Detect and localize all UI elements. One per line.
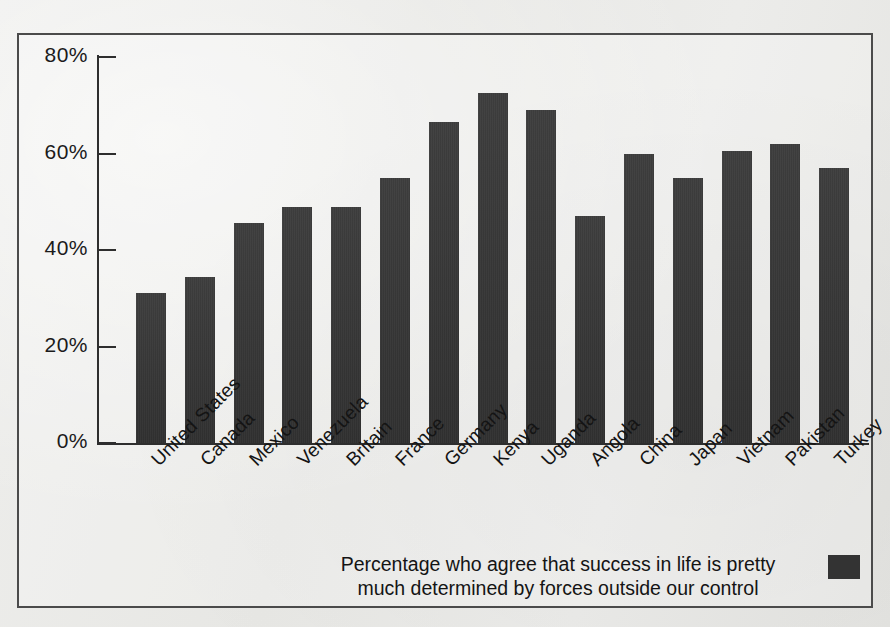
y-axis-tick-labels: 0%20%40%60%80% (0, 0, 88, 627)
legend-color-swatch (828, 555, 860, 579)
legend-label-line-2: much determined by forces outside our co… (300, 576, 816, 600)
y-axis-tick (99, 442, 116, 444)
y-axis-tick (99, 346, 116, 348)
bar (282, 207, 312, 443)
bar (722, 151, 752, 443)
bar (575, 216, 605, 443)
bar (819, 168, 849, 443)
y-axis-tick (99, 153, 116, 155)
y-axis-tick (99, 56, 116, 58)
plot-area (97, 57, 867, 443)
y-axis-tick-label: 60% (44, 140, 88, 164)
bar (136, 293, 166, 443)
y-axis-tick-label: 20% (44, 333, 88, 357)
chart-legend: Percentage who agree that success in lif… (300, 552, 860, 600)
legend-label: Percentage who agree that success in lif… (300, 552, 816, 600)
bar (478, 93, 508, 443)
y-axis-tick-label: 40% (44, 236, 88, 260)
y-axis-tick (99, 249, 116, 251)
bar (673, 178, 703, 443)
bar (770, 144, 800, 443)
y-axis-tick-label: 0% (57, 429, 88, 453)
legend-label-line-1: Percentage who agree that success in lif… (300, 552, 816, 576)
bar (624, 154, 654, 444)
bar (429, 122, 459, 443)
bar (380, 178, 410, 443)
bar (234, 223, 264, 443)
bar (526, 110, 556, 443)
y-axis-tick-label: 80% (44, 43, 88, 67)
